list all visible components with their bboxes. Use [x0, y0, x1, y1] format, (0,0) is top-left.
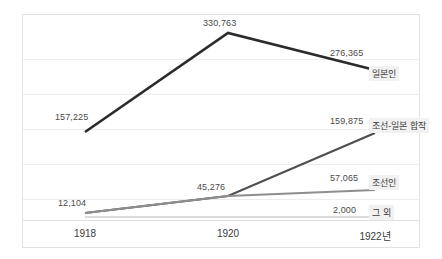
series-label-korean: 조선인: [369, 175, 399, 190]
data-label-shared-1918: 12,104: [58, 198, 86, 208]
data-label-japanese-1918: 157,225: [55, 112, 88, 122]
x-tick-1922: 1922년: [342, 228, 408, 243]
line-chart: 157,225 330,763 276,365 159,875 45,276 1…: [0, 0, 442, 259]
series-label-joint: 조선-일본 합작: [369, 118, 429, 133]
x-tick-1918: 1918: [55, 228, 115, 239]
data-label-other-1922: 2,000: [333, 205, 356, 215]
data-label-japanese-1922: 276,365: [330, 48, 363, 58]
series-label-other: 그 외: [369, 205, 394, 220]
x-tick-1920: 1920: [198, 228, 258, 239]
data-label-joint-1922: 159,875: [330, 116, 363, 126]
data-label-shared-1920: 45,276: [197, 182, 225, 192]
x-axis-line: [23, 220, 419, 221]
gridline: [23, 129, 419, 130]
gridline: [23, 164, 419, 165]
gridline: [23, 59, 419, 60]
data-label-korean-1922: 57,065: [330, 173, 358, 183]
data-label-japanese-1920: 330,763: [203, 18, 236, 28]
gridline: [23, 94, 419, 95]
series-label-japanese: 일본인: [369, 66, 399, 81]
